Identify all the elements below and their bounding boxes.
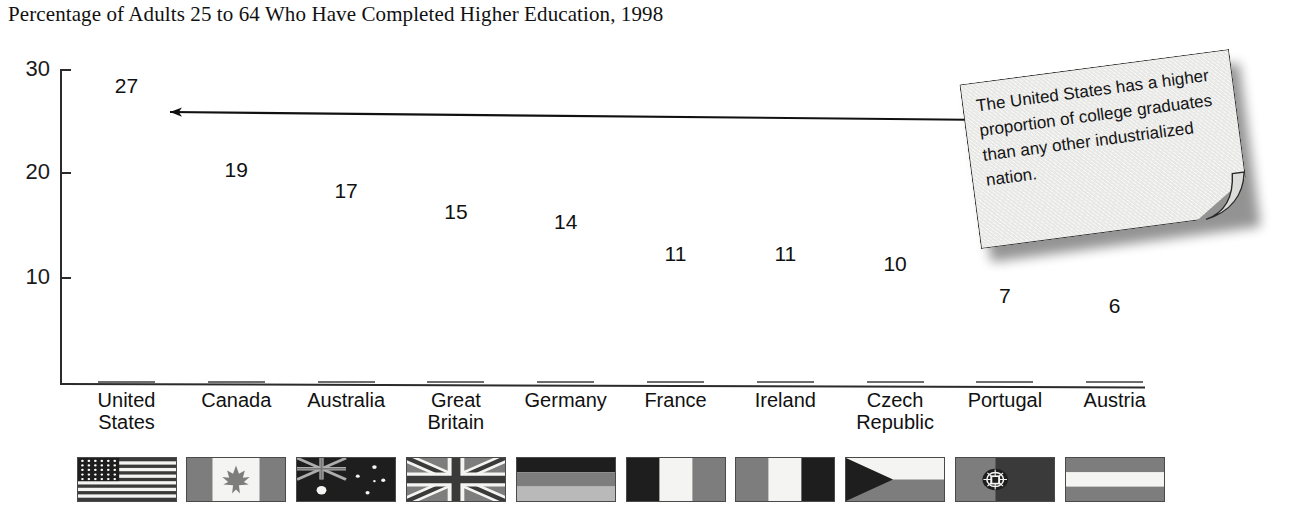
note-paper: The United States has a higher proportio… [959, 49, 1250, 249]
callout-note: The United States has a higher proportio… [965, 64, 1250, 249]
note-curled-corner-icon [1180, 170, 1251, 224]
bar-chart: Percentage of Adults 25 to 64 Who Have C… [0, 0, 1292, 510]
